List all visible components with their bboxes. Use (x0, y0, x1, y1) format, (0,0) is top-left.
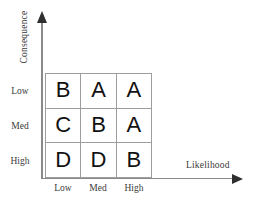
y-axis-tick-label: Med (2, 121, 38, 131)
matrix-cell: D (81, 143, 116, 178)
matrix-cell: B (46, 74, 81, 109)
arrow-up-icon (37, 11, 47, 23)
x-axis-tick-label: Low (45, 183, 81, 193)
y-axis-title: Consequence (19, 1, 29, 73)
matrix-cell-label: D (91, 149, 107, 172)
x-axis-tick-label: High (116, 183, 152, 193)
matrix-cell: B (81, 109, 116, 144)
matrix-cell-label: B (91, 114, 106, 137)
matrix-cell: D (46, 143, 81, 178)
matrix-cell-label: B (126, 149, 141, 172)
matrix-cell: C (46, 109, 81, 144)
matrix-cell-label: A (126, 79, 141, 102)
y-axis-line (41, 22, 43, 179)
matrix-cell: A (117, 109, 152, 144)
matrix-cell-label: B (56, 79, 71, 102)
matrix-cell-label: A (91, 79, 106, 102)
arrow-right-icon (232, 174, 243, 184)
risk-matrix-grid: B A A C B A D D B (45, 73, 152, 178)
x-axis-tick-label: Med (80, 183, 116, 193)
risk-assessment-matrix-figure: Consequence Likelihood Low Med High B A … (0, 0, 255, 211)
matrix-cell: B (117, 143, 152, 178)
matrix-cell-label: A (126, 114, 141, 137)
matrix-cell: A (81, 74, 116, 109)
y-axis-tick-label: Low (2, 86, 38, 96)
matrix-cell: A (117, 74, 152, 109)
matrix-cell-label: C (55, 114, 71, 137)
y-axis-tick-label: High (2, 156, 38, 166)
x-axis-title: Likelihood (186, 160, 230, 170)
matrix-cell-label: D (55, 149, 71, 172)
